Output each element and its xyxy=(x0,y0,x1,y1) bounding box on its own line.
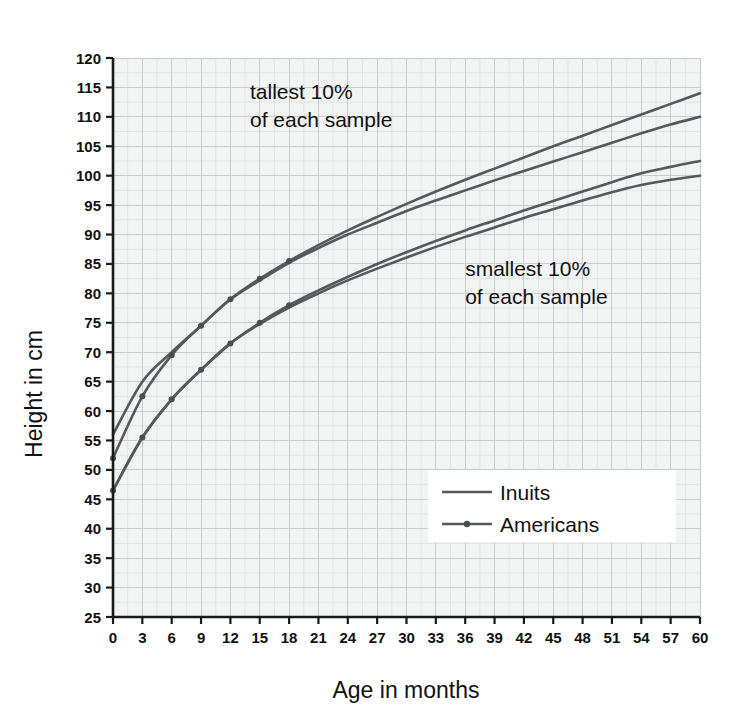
series-data-point xyxy=(139,435,145,441)
y-tick-label: 95 xyxy=(84,197,101,214)
x-tick-label: 51 xyxy=(604,629,621,646)
chart-canvas: 2530354045505560657075808590951001051101… xyxy=(0,0,736,722)
y-tick-label: 115 xyxy=(77,79,101,96)
x-tick-label: 24 xyxy=(339,629,356,646)
series-data-point xyxy=(286,258,292,264)
y-tick-label: 85 xyxy=(84,255,101,272)
y-tick-label: 80 xyxy=(84,285,101,302)
legend-label-americans: Americans xyxy=(500,513,599,536)
y-tick-label: 30 xyxy=(84,579,101,596)
y-tick-label: 25 xyxy=(84,609,101,626)
x-tick-label: 9 xyxy=(197,629,205,646)
x-tick-label: 0 xyxy=(109,629,117,646)
y-tick-label: 65 xyxy=(84,373,101,390)
x-tick-label: 45 xyxy=(545,629,562,646)
y-tick-label: 70 xyxy=(84,344,101,361)
series-data-point xyxy=(198,367,204,373)
y-tick-label: 90 xyxy=(84,226,101,243)
x-tick-label: 60 xyxy=(692,629,709,646)
annotation-line-1: tallest 10% xyxy=(250,80,353,103)
y-tick-label: 55 xyxy=(84,432,101,449)
series-data-point xyxy=(139,393,145,399)
y-tick-label: 120 xyxy=(76,50,101,67)
y-tick-label: 75 xyxy=(84,314,101,331)
x-tick-label: 18 xyxy=(281,629,298,646)
x-tick-label: 54 xyxy=(633,629,650,646)
series-data-point xyxy=(257,276,263,282)
x-tick-label: 27 xyxy=(369,629,386,646)
legend: Inuits Americans xyxy=(428,470,676,542)
y-tick-label: 110 xyxy=(77,108,101,125)
legend-label-inuits: Inuits xyxy=(500,481,550,504)
series-data-point xyxy=(169,396,175,402)
y-tick-label: 50 xyxy=(84,461,101,478)
series-data-point xyxy=(169,352,175,358)
x-tick-label: 42 xyxy=(516,629,533,646)
y-axis-title: Height in cm xyxy=(21,330,47,458)
x-tick-label: 15 xyxy=(251,629,268,646)
y-tick-label: 40 xyxy=(84,520,101,537)
x-tick-label: 33 xyxy=(428,629,445,646)
growth-chart: 2530354045505560657075808590951001051101… xyxy=(0,0,736,722)
legend-marker-americans xyxy=(464,521,470,527)
series-data-point xyxy=(227,340,233,346)
annotation-line-1: smallest 10% xyxy=(465,257,590,280)
series-data-point xyxy=(227,296,233,302)
x-tick-label: 36 xyxy=(457,629,474,646)
x-tick-label: 48 xyxy=(574,629,591,646)
x-tick-label: 6 xyxy=(168,629,176,646)
x-tick-label: 39 xyxy=(486,629,503,646)
y-tick-label: 60 xyxy=(84,403,101,420)
x-tick-label: 21 xyxy=(310,629,327,646)
x-tick-label: 3 xyxy=(138,629,146,646)
annotation-line-2: of each sample xyxy=(250,108,392,131)
y-tick-label: 105 xyxy=(76,138,101,155)
series-data-point xyxy=(257,320,263,326)
y-tick-label: 100 xyxy=(76,167,101,184)
x-tick-label: 57 xyxy=(662,629,679,646)
x-tick-label: 12 xyxy=(222,629,239,646)
x-axis-title: Age in months xyxy=(332,677,479,703)
y-tick-label: 45 xyxy=(84,491,101,508)
series-data-point xyxy=(286,302,292,308)
x-tick-label: 30 xyxy=(398,629,415,646)
series-data-point xyxy=(198,323,204,329)
y-tick-label: 35 xyxy=(84,550,101,567)
annotation-line-2: of each sample xyxy=(465,285,607,308)
